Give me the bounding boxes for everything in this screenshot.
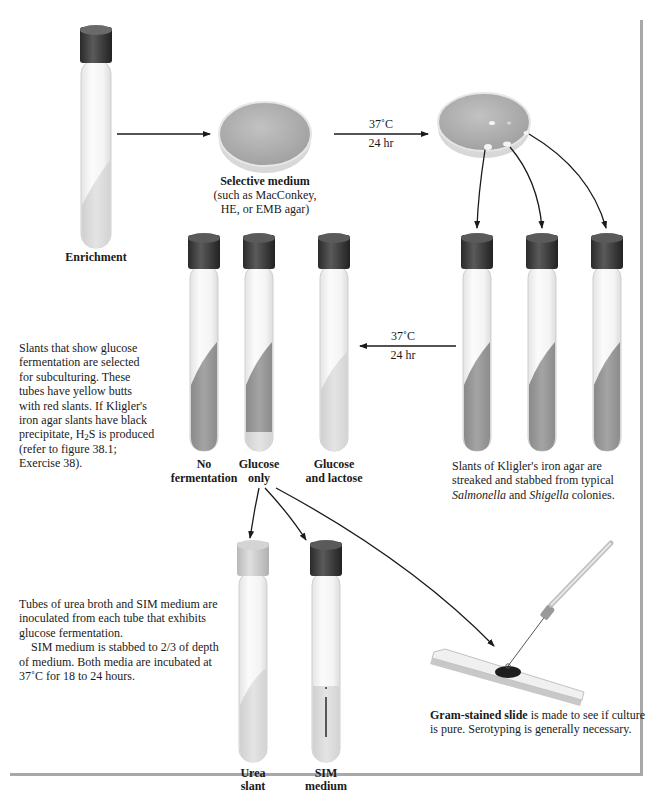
- kia-tube-3: [591, 233, 623, 451]
- colony: [524, 131, 529, 135]
- gram-stained-slide: [430, 649, 584, 706]
- note-line: glucose fermentation.: [19, 626, 229, 640]
- gram-caption-rest: is made to see if culture: [528, 708, 645, 722]
- label-urea-slant: Urea slant: [223, 767, 283, 793]
- label-line: only: [219, 471, 299, 485]
- note-line: SIM medium is stabbed to 2/3 of depth: [19, 640, 229, 654]
- tube-no-fermentation: [188, 233, 220, 451]
- colony: [507, 122, 511, 125]
- selective-medium-line1: (such as MacConkey,: [210, 188, 320, 202]
- colony-plate: [438, 93, 530, 158]
- arrow-to-urea-slant: [250, 488, 259, 538]
- label-glucose-and-lactose: Glucose and lactose: [290, 457, 378, 485]
- kia-caption: Slants of Kligler's iron agar are streak…: [452, 459, 642, 502]
- h2s-post: S is produced: [89, 427, 154, 441]
- inoculating-loop: [506, 543, 611, 668]
- h2s-pre: precipitate, H: [19, 427, 84, 441]
- label-glucose-only: Glucose only: [219, 457, 299, 485]
- arrow-colony-to-kia-2: [510, 147, 542, 228]
- urea-sim-note: Tubes of urea broth and SIM medium are i…: [19, 597, 229, 683]
- note-line: with red slants. If Kligler's: [19, 399, 179, 413]
- salmonella-text: Salmonella: [452, 488, 506, 502]
- note-line: Tubes of urea broth and SIM medium are: [19, 597, 229, 611]
- gram-slide-caption: Gram-stained slide is made to see if cul…: [430, 708, 645, 737]
- note-line: for subculturing. These: [19, 370, 179, 384]
- gram-caption-bold: Gram-stained slide: [430, 708, 528, 722]
- tube-glucose-and-lactose: [318, 233, 350, 451]
- arrow-colony-to-kia-1: [477, 150, 485, 228]
- label-line: slant: [223, 780, 283, 793]
- colony: [489, 121, 495, 125]
- kia-tube-1: [461, 233, 493, 451]
- kia-caption-line1: Slants of Kligler's iron agar are: [452, 459, 642, 473]
- incubation-1-time: 24 hr: [356, 136, 406, 150]
- label-line: and lactose: [290, 471, 378, 485]
- note-line: of medium. Both media are incubated at: [19, 655, 229, 669]
- label-line: Glucose: [219, 457, 299, 471]
- arrow-to-sim-medium: [265, 488, 306, 540]
- label-sim-medium: SIM medium: [294, 767, 358, 793]
- note-line: Slants that show glucose: [19, 341, 179, 355]
- selective-medium-plate: [219, 102, 311, 173]
- label-line: medium: [294, 780, 358, 793]
- slant-selection-note: Slants that show glucose fermentation ar…: [19, 341, 179, 471]
- selective-medium-caption: Selective medium (such as MacConkey, HE,…: [210, 174, 320, 216]
- incubation-2-temp: 37˚C: [378, 329, 428, 343]
- selective-medium-title: Selective medium: [210, 174, 320, 188]
- incubation-2-time: 24 hr: [378, 348, 428, 362]
- kia-caption-line3: Salmonella and Shigella colonies.: [452, 488, 642, 502]
- note-line: iron agar slants have black: [19, 413, 179, 427]
- frame-border-right: [640, 20, 643, 775]
- tube-glucose-only: [243, 233, 275, 451]
- sim-medium-tube: [310, 540, 342, 762]
- incubation-1-temp: 37˚C: [356, 117, 406, 131]
- enrichment-label: Enrichment: [56, 250, 136, 264]
- kia-caption-line2: streaked and stabbed from typical: [452, 473, 642, 487]
- kia-tube-2: [526, 233, 558, 451]
- colonies-text: colonies.: [569, 488, 615, 502]
- enrichment-tube: [80, 25, 112, 248]
- label-line: Glucose: [290, 457, 378, 471]
- urea-slant-tube: [237, 540, 269, 762]
- gram-caption-line1: Gram-stained slide is made to see if cul…: [430, 708, 645, 722]
- note-line: Exercise 38).: [19, 456, 179, 470]
- selective-medium-line2: HE, or EMB agar): [210, 202, 320, 216]
- note-line: 37˚C for 18 to 24 hours.: [19, 669, 229, 683]
- arrow-to-gram-slide: [276, 488, 494, 646]
- note-line: tubes have yellow butts: [19, 384, 179, 398]
- colony: [503, 142, 511, 147]
- note-line: inoculated from each tube that exhibits: [19, 611, 229, 625]
- note-line: (refer to figure 38.1;: [19, 442, 179, 456]
- colony: [484, 144, 492, 150]
- note-line: fermentation are selected: [19, 355, 179, 369]
- gram-caption-line2: is pure. Serotyping is generally necessa…: [430, 722, 645, 736]
- shigella-text: Shigella: [529, 488, 568, 502]
- figure-canvas: Enrichment Selective medium (such as Mac…: [0, 0, 654, 809]
- and-text: and: [506, 488, 529, 502]
- note-line-h2s: precipitate, H2S is produced: [19, 427, 179, 441]
